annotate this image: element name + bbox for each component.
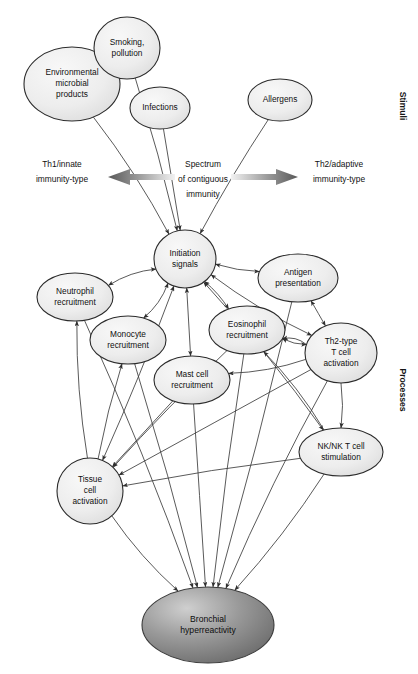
edge-mastcell-to-bronchial: [194, 404, 206, 587]
node-shape-infections[interactable]: [130, 87, 190, 129]
edge-initiation-to-monocyte: [143, 283, 168, 318]
node-initiation[interactable]: Initiationsignals: [154, 230, 216, 288]
edge-antigen-to-th2: [311, 301, 325, 326]
node-nknkt[interactable]: NK/NK T cellstimulation: [299, 428, 383, 476]
node-shape-monocyte[interactable]: [90, 316, 166, 364]
node-infections[interactable]: Infections: [130, 87, 190, 129]
node-smoking[interactable]: Smoking,pollution: [94, 17, 160, 79]
spectrum-center-label-line2: of contiguous: [178, 174, 228, 184]
edge-initiation-to-mastcell: [187, 288, 191, 356]
node-shape-tissue[interactable]: [57, 458, 123, 524]
pathway-diagram: Th1/innate immunity-type Spectrum of con…: [0, 0, 418, 674]
spectrum-right-label-line2: immunity-type: [313, 174, 365, 184]
spectrum-left-label-line1: Th1/innate: [42, 159, 82, 169]
node-shape-th2[interactable]: [305, 323, 377, 383]
node-bronchial[interactable]: Bronchialhyperreactivity: [142, 587, 274, 663]
side-label-stimuli: Stimuli: [398, 92, 408, 121]
spectrum-right-label-line1: Th2/adaptive: [315, 159, 364, 169]
node-shape-bronchial[interactable]: [142, 587, 274, 663]
edge-nknkt-to-bronchial: [235, 474, 324, 590]
node-layer: EnvironmentalmicrobialproductsSmoking,po…: [24, 17, 383, 663]
side-label-processes: Processes: [398, 368, 408, 411]
figure-canvas: Th1/innate immunity-type Spectrum of con…: [0, 0, 418, 674]
node-monocyte[interactable]: Monocyterecruitment: [90, 316, 166, 364]
edge-tissue-to-neutrophil: [77, 321, 88, 458]
edge-initiation-to-antigen: [216, 264, 260, 271]
node-shape-antigen[interactable]: [258, 254, 338, 302]
node-eosinophil[interactable]: Eosinophilrecruitment: [209, 306, 285, 354]
node-allergens[interactable]: Allergens: [248, 79, 312, 121]
node-tissue[interactable]: Tissuecellactivation: [57, 458, 123, 524]
node-shape-smoking[interactable]: [94, 17, 160, 79]
node-shape-nknkt[interactable]: [299, 428, 383, 476]
spectrum-band: Th1/innate immunity-type Spectrum of con…: [36, 159, 365, 199]
edge-initiation-to-neutrophil: [108, 269, 156, 285]
node-th2[interactable]: Th2-typeT cellactivation: [305, 323, 377, 383]
node-shape-allergens[interactable]: [248, 79, 312, 121]
node-neutrophil[interactable]: Neutrophilrecruitment: [37, 273, 113, 321]
edge-initiation-to-eosinophil: [205, 281, 229, 309]
node-shape-eosinophil[interactable]: [209, 306, 285, 354]
spectrum-center-label-line1: Spectrum: [185, 159, 221, 169]
spectrum-arrow-right: [231, 169, 298, 185]
edge-th2-to-mastcell: [229, 359, 306, 373]
node-shape-neutrophil[interactable]: [37, 273, 113, 321]
side-label-layer: Stimuli Processes: [398, 92, 408, 412]
node-shape-initiation[interactable]: [154, 230, 216, 288]
spectrum-left-label-line2: immunity-type: [36, 174, 88, 184]
node-antigen[interactable]: Antigenpresentation: [258, 254, 338, 302]
node-shape-mastcell[interactable]: [154, 356, 230, 404]
spectrum-center-label-line3: immunity: [186, 189, 220, 199]
edge-tissue-to-bronchial: [112, 516, 178, 591]
node-mastcell[interactable]: Mast cellrecruitment: [154, 356, 230, 404]
edge-th2-to-nknkt: [341, 383, 343, 428]
